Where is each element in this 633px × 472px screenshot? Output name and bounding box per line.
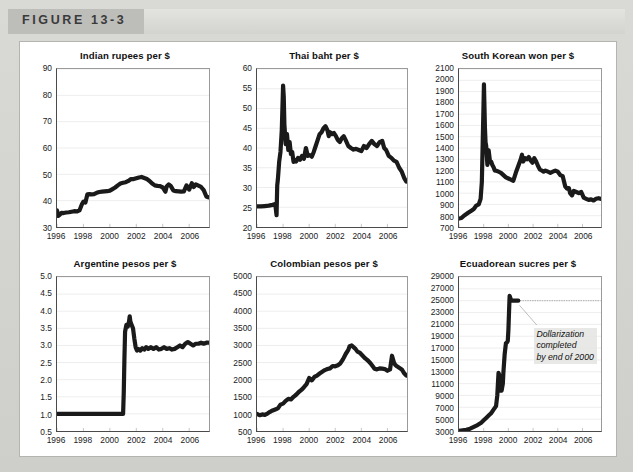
x-tick-label: 2002 [326,435,345,445]
y-axis-labels-south-korean-won: 7008009001000110012001300140015001600170… [420,68,454,228]
y-tick-label: 2500 [233,358,252,368]
chart-title-ecuadorean-sucres: Ecuadorean sucres per $ [420,258,616,269]
x-tick-label: 2004 [154,231,173,241]
x-tick-label: 2000 [499,231,518,241]
y-axis-labels-thai-baht: 202530354045505560 [226,68,252,228]
x-tick-label: 2002 [326,231,345,241]
annotation-line: Dollarization [536,329,593,340]
chart-south-korean-won: South Korean won per $700800900100011001… [420,50,616,250]
chart-title-south-korean-won: South Korean won per $ [420,50,616,61]
x-tick-label: 2002 [127,231,146,241]
y-tick-label: 1500 [435,132,454,142]
chart-indian-rupees: Indian rupees per $304050607080901996199… [26,50,224,250]
y-tick-label: 2000 [233,375,252,385]
y-tick-label: 25 [243,203,252,213]
x-tick-label: 1998 [474,435,493,445]
y-tick-label: 13000 [431,367,454,377]
chart-title-thai-baht: Thai baht per $ [226,50,422,61]
y-tick-label: 15000 [431,355,454,365]
y-tick-label: 45 [243,123,252,133]
y-tick-label: 1000 [233,410,252,420]
chart-argentine-pesos: Argentine pesos per $0.51.01.52.02.53.03… [26,258,224,454]
y-tick-label: 3.0 [40,340,52,350]
figure-label: FIGURE 13-3 [22,13,126,27]
x-tick-label: 2006 [181,435,200,445]
x-tick-label: 1998 [73,435,92,445]
x-tick-label: 1996 [247,231,266,241]
y-tick-label: 29000 [431,271,454,281]
y-tick-label: 2.0 [40,375,52,385]
y-tick-label: 80 [43,90,52,100]
y-tick-label: 1500 [233,392,252,402]
chart-colombian-pesos: Colombian pesos per $5001000150020002500… [226,258,422,454]
x-tick-label: 2000 [100,231,119,241]
y-tick-label: 60 [243,63,252,73]
y-tick-label: 2100 [435,63,454,73]
plot-area-thai-baht [256,68,408,228]
x-tick-label: 1998 [273,231,292,241]
y-tick-label: 900 [440,200,454,210]
plot-area-colombian-pesos [256,276,408,432]
x-tick-label: 1998 [474,231,493,241]
y-tick-label: 1300 [435,154,454,164]
x-tick-label: 1996 [47,231,66,241]
y-tick-label: 1900 [435,86,454,96]
plot-area-south-korean-won [458,68,602,228]
x-tick-label: 2002 [127,435,146,445]
y-tick-label: 1.5 [40,392,52,402]
plot-argentine-pesos [56,276,210,432]
y-tick-label: 40 [243,143,252,153]
annotation-line: completed [536,340,593,351]
figure-panel: Indian rupees per $304050607080901996199… [19,41,617,457]
y-tick-label: 27000 [431,283,454,293]
y-tick-label: 60 [43,143,52,153]
charts-container: Indian rupees per $304050607080901996199… [20,42,616,456]
x-tick-label: 2004 [154,435,173,445]
y-tick-label: 30 [243,183,252,193]
y-tick-label: 70 [43,116,52,126]
x-tick-label: 2004 [352,231,371,241]
plot-south-korean-won [458,68,602,228]
chart-annotation-dollarization: Dollarizationcompletedby end of 2000 [534,328,596,364]
figure-frame: FIGURE 13-3 Indian rupees per $304050607… [0,0,633,472]
y-tick-label: 19000 [431,331,454,341]
x-tick-label: 1996 [247,435,266,445]
x-tick-label: 2002 [524,231,543,241]
x-tick-label: 2006 [379,231,398,241]
y-tick-label: 1.0 [40,410,52,420]
x-tick-label: 2000 [300,231,319,241]
y-axis-labels-indian-rupees: 30405060708090 [26,68,52,228]
y-tick-label: 21000 [431,319,454,329]
x-tick-label: 2006 [379,435,398,445]
y-tick-label: 1700 [435,109,454,119]
y-tick-label: 9000 [435,391,454,401]
x-tick-label: 1998 [273,435,292,445]
y-tick-label: 1800 [435,97,454,107]
y-tick-label: 5.0 [40,271,52,281]
y-tick-label: 40 [43,196,52,206]
annotation-line: by end of 2000 [536,352,593,363]
y-tick-label: 5000 [435,415,454,425]
x-tick-label: 2000 [499,435,518,445]
x-tick-label: 2006 [574,231,593,241]
plot-indian-rupees [56,68,210,228]
y-tick-label: 50 [243,103,252,113]
y-tick-label: 90 [43,63,52,73]
y-tick-label: 4500 [233,288,252,298]
x-tick-label: 1998 [73,231,92,241]
chart-thai-baht: Thai baht per $2025303540455055601996199… [226,50,422,250]
plot-thai-baht [256,68,408,228]
y-tick-label: 25000 [431,295,454,305]
x-tick-label: 2000 [100,435,119,445]
y-axis-labels-ecuadorean-sucres: 3000500070009000110001300015000170001900… [420,276,454,432]
y-tick-label: 1000 [435,189,454,199]
y-tick-label: 3.5 [40,323,52,333]
y-tick-label: 7000 [435,403,454,413]
y-tick-label: 1100 [436,177,454,187]
y-tick-label: 35 [243,163,252,173]
y-tick-label: 2.5 [40,358,52,368]
y-tick-label: 4.0 [40,306,52,316]
y-axis-labels-argentine-pesos: 0.51.01.52.02.53.03.54.04.55.0 [26,276,52,432]
plot-area-argentine-pesos [56,276,210,432]
y-tick-label: 4.5 [40,288,52,298]
